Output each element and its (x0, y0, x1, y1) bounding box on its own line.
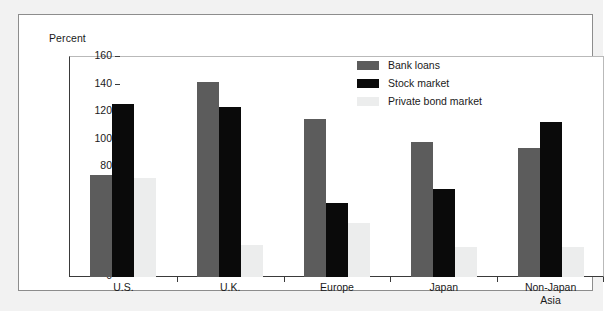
legend-swatch-icon (357, 79, 379, 88)
bar (433, 189, 455, 277)
bar (562, 247, 584, 277)
x-axis-label: U.K. (177, 281, 284, 294)
bar (197, 82, 219, 277)
plot-area: 020406080100120140160 (70, 56, 604, 277)
x-axis-label: U.S. (70, 281, 177, 294)
bar (112, 104, 134, 277)
legend-label: Bank loans (388, 59, 440, 71)
legend-label: Private bond market (388, 95, 482, 107)
bar (134, 178, 156, 277)
bar (348, 223, 370, 277)
legend-swatch-icon (357, 97, 379, 106)
bar-group (197, 56, 263, 277)
x-axis-label: Non-Japan Asia (497, 281, 604, 306)
bar (326, 203, 348, 277)
bar (304, 119, 326, 277)
bar (90, 175, 112, 277)
chart-card: Percent 020406080100120140160 U.S.U.K.Eu… (18, 14, 593, 291)
bar (219, 107, 241, 278)
y-axis-title: Percent (49, 32, 86, 44)
legend-label: Stock market (388, 77, 449, 89)
bar (241, 245, 263, 277)
legend-swatch-icon (357, 61, 379, 70)
bar-group (518, 56, 584, 277)
bar (518, 148, 540, 277)
bar (455, 247, 477, 277)
bar (540, 122, 562, 277)
chart-legend: Bank loansStock marketPrivate bond marke… (357, 57, 482, 111)
x-axis-label: Europe (284, 281, 391, 294)
legend-item: Bank loans (357, 57, 482, 73)
legend-item: Stock market (357, 75, 482, 91)
bar-group (90, 56, 156, 277)
x-axis-label: Japan (390, 281, 497, 294)
bar (411, 142, 433, 277)
legend-item: Private bond market (357, 93, 482, 109)
